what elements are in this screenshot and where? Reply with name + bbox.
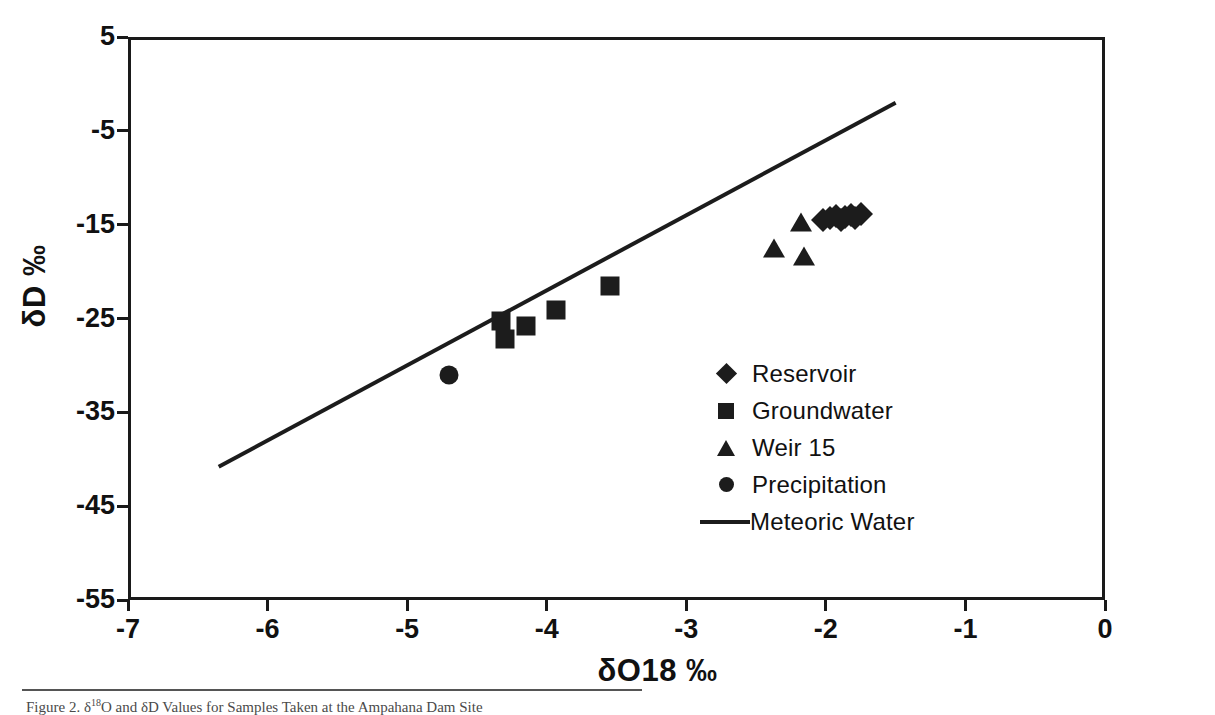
legend-item-groundwater: Groundwater	[700, 392, 1000, 429]
data-point-weir-15	[790, 212, 812, 231]
x-tick-mark	[1104, 600, 1107, 611]
x-tick-mark	[824, 600, 827, 611]
legend-swatch	[700, 520, 750, 524]
y-tick-mark	[117, 411, 128, 414]
data-point-groundwater	[516, 317, 535, 336]
legend-item-reservoir: Reservoir	[700, 355, 1000, 392]
legend-label: Meteoric Water	[750, 508, 915, 536]
x-tick-mark	[406, 600, 409, 611]
y-tick-label: -35	[10, 398, 115, 425]
y-axis-title: δD ‰	[17, 245, 53, 328]
legend-swatch	[700, 403, 752, 419]
y-tick-mark	[117, 505, 128, 508]
x-tick-label: -1	[925, 616, 1005, 643]
y-tick-label: -15	[10, 211, 115, 238]
y-tick-label: -55	[10, 586, 115, 613]
y-tick-mark	[117, 36, 128, 39]
x-tick-mark	[127, 600, 130, 611]
x-tick-mark	[964, 600, 967, 611]
triangle-icon	[717, 440, 735, 456]
diamond-icon	[715, 363, 736, 384]
x-tick-mark	[685, 600, 688, 611]
data-point-groundwater	[491, 312, 510, 331]
data-point-groundwater	[547, 301, 566, 320]
x-tick-label: -7	[88, 616, 168, 643]
y-tick-mark	[117, 317, 128, 320]
x-tick-mark	[266, 600, 269, 611]
x-axis-title: δO18 ‰	[0, 653, 1215, 689]
line-icon	[700, 520, 750, 524]
y-tick-label: -5	[10, 117, 115, 144]
data-point-groundwater	[600, 276, 619, 295]
x-tick-label: -4	[507, 616, 587, 643]
legend-label: Groundwater	[752, 397, 893, 425]
legend-label: Weir 15	[752, 434, 836, 462]
x-tick-label: -5	[367, 616, 447, 643]
chart-legend: ReservoirGroundwaterWeir 15Precipitation…	[700, 355, 1000, 540]
x-tick-label: 0	[1065, 616, 1145, 643]
x-tick-label: -3	[646, 616, 726, 643]
legend-item-weir-15: Weir 15	[700, 429, 1000, 466]
y-tick-mark	[117, 223, 128, 226]
legend-item-precipitation: Precipitation	[700, 466, 1000, 503]
legend-swatch	[700, 366, 752, 381]
caption-divider	[22, 689, 642, 691]
x-tick-label: -2	[786, 616, 866, 643]
data-point-weir-15	[763, 239, 785, 258]
circle-icon	[719, 477, 734, 492]
legend-label: Reservoir	[752, 360, 857, 388]
y-tick-label: 5	[10, 23, 115, 50]
y-tick-mark	[117, 129, 128, 132]
data-point-precipitation	[440, 365, 459, 384]
legend-label: Precipitation	[752, 471, 887, 499]
legend-item-meteoric-water: Meteoric Water	[700, 503, 1000, 540]
data-point-weir-15	[793, 246, 815, 265]
data-point-groundwater	[495, 330, 514, 349]
scatter-chart: 5-5-15-25-35-45-55 -7-6-5-4-3-2-10 δD ‰ …	[0, 0, 1215, 686]
legend-swatch	[700, 440, 752, 456]
y-tick-label: -45	[10, 492, 115, 519]
square-icon	[718, 403, 734, 419]
legend-swatch	[700, 477, 752, 492]
figure-caption: Figure 2. δ18O and δD Values for Samples…	[26, 697, 483, 715]
figure-page: 5-5-15-25-35-45-55 -7-6-5-4-3-2-10 δD ‰ …	[0, 0, 1215, 715]
x-tick-mark	[545, 600, 548, 611]
x-tick-label: -6	[228, 616, 308, 643]
